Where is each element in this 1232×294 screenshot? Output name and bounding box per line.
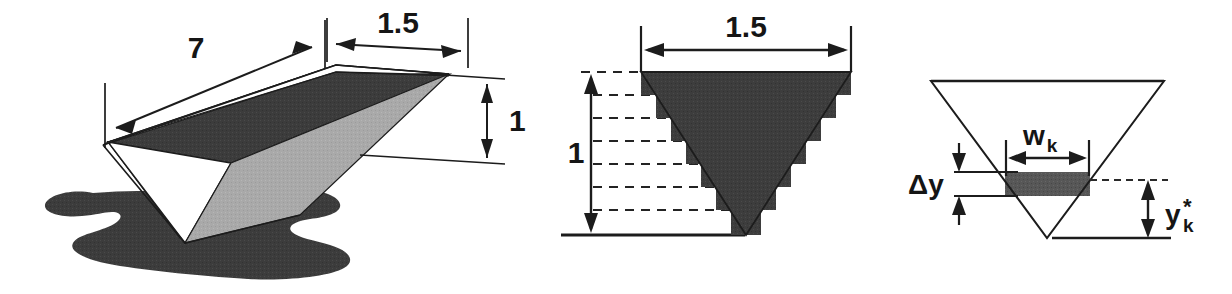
slab-4 (686, 141, 806, 164)
mid-dim-arrow-width (644, 43, 848, 57)
figure-root: 7 1.5 1 (0, 0, 1232, 294)
yk-dim-arrows (1141, 180, 1155, 238)
representative-slab (1005, 172, 1090, 196)
panel-middle-discretized: 1.5 1 (545, 0, 905, 294)
panel-right-slab-detail: Δy w k y * k (900, 0, 1232, 294)
slab-5 (701, 164, 791, 187)
slab-1 (641, 72, 851, 95)
panel-left-trough: 7 1.5 1 (0, 0, 530, 294)
slab-6 (716, 187, 776, 210)
mid-label-depth-1: 1 (568, 136, 585, 169)
slab-2 (656, 95, 836, 118)
slab-3 (671, 118, 821, 141)
detail-triangle-outline (931, 81, 1164, 238)
dim-arrow-depth (481, 84, 493, 158)
slab-7 (731, 210, 761, 235)
label-y-star-k: y * k (1165, 194, 1194, 236)
label-w-k-subscript: k (1047, 135, 1058, 156)
ext-line-depth-bottom (360, 155, 505, 164)
label-depth-1: 1 (509, 104, 526, 137)
label-top-width-1p5: 1.5 (377, 6, 419, 39)
label-delta-y: Δy (908, 169, 944, 200)
slab-stack (641, 72, 851, 235)
mid-label-width-1p5: 1.5 (725, 10, 767, 43)
dy-dim-arrows (952, 143, 966, 225)
dim-arrow-width (336, 38, 461, 58)
label-length-7: 7 (188, 31, 205, 64)
label-w-k: w k (1022, 120, 1058, 156)
label-y-star-k-base: y (1165, 199, 1181, 230)
label-y-star-k-subscript: k (1183, 215, 1194, 236)
label-w-k-base: w (1022, 120, 1045, 151)
